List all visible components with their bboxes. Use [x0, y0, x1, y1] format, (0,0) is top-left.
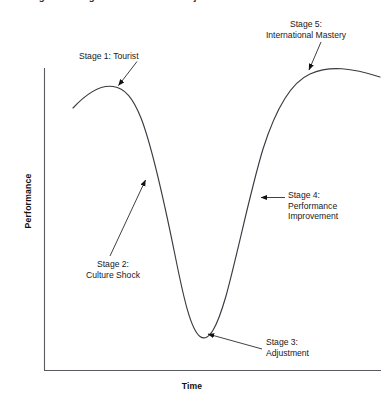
annotation-stage-3-line-1: Stage 3: [266, 337, 309, 348]
annotation-stage-2: Stage 2: Culture Shock [76, 259, 150, 280]
annotation-stage-4-line-2: Performance [288, 201, 338, 212]
stage5-leader-line [309, 42, 321, 70]
annotation-stage-3: Stage 3: Adjustment [266, 337, 309, 358]
stage2-leader-line [110, 180, 146, 256]
annotation-stage-4: Stage 4: Performance Improvement [288, 190, 338, 222]
annotation-stage-5-line-1: Stage 5: [246, 19, 366, 30]
stage3-leader-line [208, 334, 262, 349]
annotation-stage-5: Stage 5: International Mastery [246, 19, 366, 40]
annotation-stage-4-line-1: Stage 4: [288, 190, 338, 201]
stage1-leader-line [119, 62, 138, 86]
annotation-stage-2-line-2: Culture Shock [76, 270, 150, 281]
annotation-stage-1-line-1: Stage 1: Tourist [79, 51, 139, 62]
y-axis-title: Performance [23, 161, 33, 241]
annotation-stage-1: Stage 1: Tourist [79, 51, 139, 62]
annotation-stage-4-line-3: Improvement [288, 211, 338, 222]
chart-figure: Figure 1: Stages of International Adjust… [0, 0, 386, 404]
annotation-stage-5-line-2: International Mastery [246, 30, 366, 41]
annotation-stage-2-line-1: Stage 2: [76, 259, 150, 270]
annotation-stage-3-line-2: Adjustment [266, 348, 309, 359]
x-axis-title: Time [152, 381, 232, 391]
